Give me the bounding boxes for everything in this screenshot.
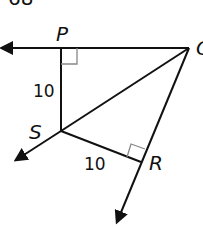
label-q: Q (196, 38, 203, 58)
right-angle-marker-r (127, 144, 145, 157)
label-p: P (56, 24, 68, 44)
right-angle-marker-p (61, 48, 77, 64)
label-s: S (29, 122, 42, 142)
label-r: R (149, 153, 163, 173)
ray-q-r (117, 48, 189, 222)
length-ps: 10 (33, 83, 55, 100)
segment-q-s (61, 48, 189, 131)
geometry-diagram (0, 0, 203, 227)
top-fragment-text: 68 (8, 0, 33, 8)
length-sr: 10 (84, 156, 106, 173)
